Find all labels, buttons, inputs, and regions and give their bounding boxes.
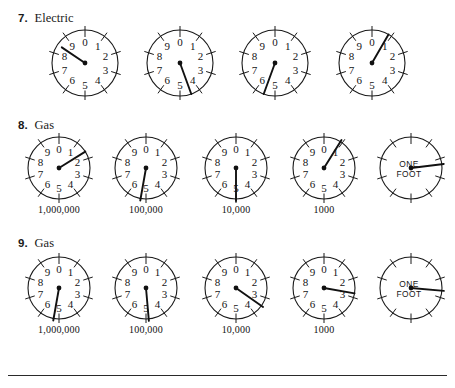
electric-dial-2-hub: [178, 61, 183, 66]
dial-digit-3: 3: [198, 64, 204, 76]
gas8-dial-1000[interactable]: 01234567891000: [289, 133, 359, 215]
dial-digit-2: 2: [252, 276, 258, 288]
dial-digit-2: 2: [162, 156, 168, 168]
dial-digit-8: 8: [125, 276, 131, 288]
gas8-dial-100000[interactable]: 0123456789100,000: [111, 133, 181, 215]
dial-digit-7: 7: [38, 288, 44, 300]
dial-digit-9: 9: [70, 40, 76, 52]
dial-digit-7: 7: [157, 64, 163, 76]
dial-digit-6: 6: [132, 298, 138, 310]
dial-digit-4: 4: [245, 298, 251, 310]
section-heading-1: 8.Gas: [18, 119, 54, 132]
dial-digit-2: 2: [198, 50, 204, 62]
gas8-dial-1000000-face: 0987654321: [24, 133, 94, 203]
gas8-dial-one-foot-face: ONEFOOT: [376, 133, 446, 203]
dial-digit-4: 4: [382, 74, 388, 86]
dial-digit-0: 0: [321, 263, 327, 275]
dial-digit-0: 0: [177, 36, 183, 48]
dial-digit-3: 3: [252, 288, 258, 300]
dial-digit-5: 5: [321, 302, 327, 314]
dial-digit-9: 9: [260, 40, 266, 52]
electric-dial-1-hub: [83, 61, 88, 66]
gas9-dial-1000[interactable]: 01234567891000: [289, 253, 359, 335]
dial-digit-3: 3: [390, 64, 396, 76]
electric-dial-3-face: 0987654321: [238, 26, 312, 100]
dial-digit-0: 0: [233, 143, 239, 155]
dial-digit-3: 3: [340, 168, 346, 180]
gas9-dial-1000000[interactable]: 09876543211,000,000: [24, 253, 94, 335]
dial-digit-1: 1: [245, 146, 251, 158]
dial-digit-9: 9: [222, 146, 228, 158]
dial-digit-2: 2: [390, 50, 396, 62]
gas8-dial-1000000-caption: 1,000,000: [24, 204, 94, 215]
gas9-dial-one-foot[interactable]: ONEFOOT: [376, 253, 446, 323]
dial-digit-2: 2: [103, 50, 109, 62]
gas8-dial-1000000[interactable]: 09876543211,000,000: [24, 133, 94, 215]
section-heading-2: 9.Gas: [18, 237, 54, 250]
dial-digit-4: 4: [68, 298, 74, 310]
gas8-dial-10000[interactable]: 098765432110,000: [201, 133, 271, 215]
section-label: Gas: [35, 118, 54, 132]
gas9-dial-1000-caption: 1000: [289, 324, 359, 335]
dial-digit-6: 6: [45, 298, 51, 310]
dial-digit-4: 4: [333, 178, 339, 190]
section-label: Gas: [35, 236, 54, 250]
dial-digit-4: 4: [333, 298, 339, 310]
dial-digit-4: 4: [155, 178, 161, 190]
gas9-dial-100000[interactable]: 0123456789100,000: [111, 253, 181, 335]
dial-digit-7: 7: [303, 168, 309, 180]
dial-digit-7: 7: [349, 64, 355, 76]
dial-digit-9: 9: [165, 40, 171, 52]
dial-digit-2: 2: [340, 156, 346, 168]
dial-digit-3: 3: [162, 168, 168, 180]
dial-digit-5: 5: [82, 79, 88, 91]
dial-digit-3: 3: [340, 288, 346, 300]
dial-digit-0: 0: [56, 143, 62, 155]
dial-digit-9: 9: [310, 266, 316, 278]
dial-digit-3: 3: [293, 64, 299, 76]
dial-digit-8: 8: [38, 156, 44, 168]
dial-digit-1: 1: [155, 266, 161, 278]
dial-digit-1: 1: [285, 40, 291, 52]
dial-digit-3: 3: [75, 168, 81, 180]
gas8-dial-one-foot[interactable]: ONEFOOT: [376, 133, 446, 203]
gas9-dial-100000-hub: [144, 286, 149, 291]
dial-digit-0: 0: [272, 36, 278, 48]
gas9-dial-10000-caption: 10,000: [201, 324, 271, 335]
dial-digit-9: 9: [132, 266, 138, 278]
dial-digit-5: 5: [56, 182, 62, 194]
electric-dial-1[interactable]: 0987654321: [48, 26, 122, 100]
dial-digit-5: 5: [369, 79, 375, 91]
gas8-dial-10000-face: 0987654321: [201, 133, 271, 203]
dial-digit-4: 4: [68, 178, 74, 190]
dial-digit-7: 7: [303, 288, 309, 300]
one-foot-label-line2: FOOT: [397, 169, 422, 179]
gas9-dial-10000[interactable]: 098765432110,000: [201, 253, 271, 335]
dial-digit-5: 5: [321, 182, 327, 194]
dial-digit-1: 1: [245, 266, 251, 278]
dial-digit-8: 8: [125, 156, 131, 168]
electric-dial-2[interactable]: 0123456789: [143, 26, 217, 100]
dial-digit-6: 6: [310, 178, 316, 190]
dial-digit-2: 2: [162, 276, 168, 288]
dial-digit-8: 8: [215, 156, 221, 168]
dial-digit-2: 2: [340, 276, 346, 288]
dial-digit-4: 4: [155, 298, 161, 310]
gas9-dial-one-foot-hub: [409, 286, 414, 291]
dial-digit-7: 7: [125, 288, 131, 300]
dial-digit-5: 5: [272, 79, 278, 91]
electric-dial-3[interactable]: 0987654321: [238, 26, 312, 100]
dial-digit-8: 8: [215, 276, 221, 288]
dial-digit-3: 3: [162, 288, 168, 300]
gas9-dial-1000000-face: 0987654321: [24, 253, 94, 323]
dial-digit-0: 0: [143, 143, 149, 155]
section-label: Electric: [35, 11, 74, 25]
footer-divider-rule: [8, 375, 447, 376]
dial-digit-7: 7: [125, 168, 131, 180]
gas9-dial-100000-caption: 100,000: [111, 324, 181, 335]
dial-digit-1: 1: [68, 146, 74, 158]
gas9-dial-100000-face: 0123456789: [111, 253, 181, 323]
dial-digit-8: 8: [303, 156, 309, 168]
electric-dial-4[interactable]: 0123456789: [335, 26, 409, 100]
dial-digit-4: 4: [95, 74, 101, 86]
